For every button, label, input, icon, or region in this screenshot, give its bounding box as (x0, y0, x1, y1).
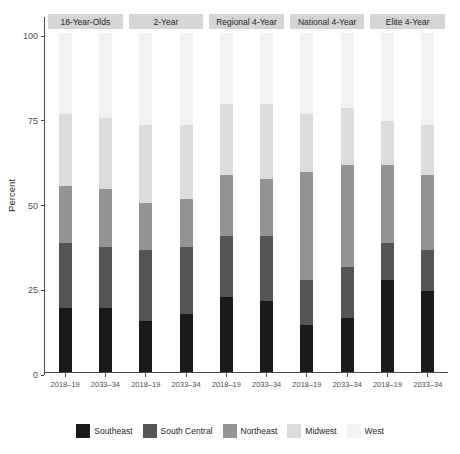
bar-segment-midwest[interactable] (180, 125, 193, 200)
bar-segment-midwest[interactable] (341, 108, 354, 166)
bar-segment-northeast[interactable] (300, 172, 313, 280)
bar-segment-southeast[interactable] (180, 314, 193, 372)
bar-segment-midwest[interactable] (220, 104, 233, 175)
x-axis-tick-mark (226, 373, 227, 377)
stacked-bar[interactable] (300, 33, 313, 372)
bar-segment-south-central[interactable] (421, 250, 434, 291)
bar-segment-northeast[interactable] (99, 189, 112, 247)
bar-segment-south-central[interactable] (139, 250, 152, 321)
legend-item-south-central[interactable]: South Central (143, 424, 213, 438)
stacked-bar[interactable] (341, 33, 354, 372)
x-axis-tick-mark (65, 373, 66, 377)
y-axis-tick: 25 (28, 284, 44, 296)
bar-segment-southeast[interactable] (381, 280, 394, 372)
bar-segment-west[interactable] (139, 33, 152, 125)
stacked-bar[interactable] (421, 33, 434, 372)
bar-segment-northeast[interactable] (180, 199, 193, 246)
stacked-bar[interactable] (381, 33, 394, 372)
facet-row: 18-Year-Olds2018–192033–342-Year2018–192… (45, 14, 448, 410)
bar-segment-west[interactable] (99, 33, 112, 118)
legend-label: Southeast (94, 426, 132, 436)
bar-segment-south-central[interactable] (381, 243, 394, 280)
legend-item-west[interactable]: West (347, 424, 384, 438)
stacked-bar[interactable] (260, 33, 273, 372)
x-axis-labels: 2018–192033–34 (126, 377, 207, 389)
bar-segment-west[interactable] (260, 33, 273, 104)
bar-segment-midwest[interactable] (99, 118, 112, 189)
bar-segment-south-central[interactable] (180, 247, 193, 315)
bar-segment-northeast[interactable] (260, 179, 273, 237)
x-axis-tick-mark (186, 373, 187, 377)
x-axis-labels: 2018–192033–34 (287, 377, 368, 389)
stacked-bar[interactable] (220, 33, 233, 372)
x-axis-ticks (45, 373, 126, 377)
stacked-bar-chart: Percent 0255075100 18-Year-Olds2018–1920… (0, 0, 460, 454)
facet-elite-4-year: Elite 4-Year2018–192033–34 (367, 14, 448, 410)
bar-segment-midwest[interactable] (300, 114, 313, 172)
x-axis-ticks (126, 373, 207, 377)
x-axis-ticks (287, 373, 368, 377)
bar-segment-southeast[interactable] (220, 297, 233, 372)
bar-segment-west[interactable] (220, 33, 233, 104)
x-axis-tick-label: 2033–34 (252, 380, 281, 389)
bar-segment-midwest[interactable] (59, 114, 72, 185)
y-axis-tick: 50 (28, 200, 44, 212)
bar-segment-west[interactable] (381, 33, 394, 121)
x-axis-labels: 2018–192033–34 (45, 377, 126, 389)
y-axis-tick-label: 25 (28, 285, 41, 295)
bar-segment-midwest[interactable] (381, 121, 394, 165)
x-axis-tick-label: 2018–19 (131, 380, 160, 389)
bar-segment-south-central[interactable] (59, 243, 72, 307)
x-axis-tick-label: 2033–34 (333, 380, 362, 389)
stacked-bar[interactable] (180, 33, 193, 372)
bar-segment-west[interactable] (341, 33, 354, 108)
y-axis-tick-label: 75 (28, 116, 41, 126)
stacked-bar[interactable] (139, 33, 152, 372)
x-axis-tick-mark (306, 373, 307, 377)
facet-2-year: 2-Year2018–192033–34 (126, 14, 207, 410)
bar-segment-southeast[interactable] (99, 308, 112, 372)
bar-segment-south-central[interactable] (99, 247, 112, 308)
bar-segment-west[interactable] (300, 33, 313, 114)
bar-segment-west[interactable] (180, 33, 193, 125)
bar-segment-midwest[interactable] (421, 125, 434, 176)
bar-segment-midwest[interactable] (260, 104, 273, 179)
facet-panel (126, 33, 207, 372)
bar-segment-south-central[interactable] (260, 236, 273, 300)
facet-strip-label: 2-Year (129, 14, 204, 29)
bar-segment-south-central[interactable] (300, 280, 313, 324)
x-axis-ticks (367, 373, 448, 377)
bar-segment-west[interactable] (59, 33, 72, 114)
bar-segment-southeast[interactable] (260, 301, 273, 372)
y-axis-tick: 0 (33, 369, 44, 381)
bar-segment-southeast[interactable] (341, 318, 354, 372)
stacked-bar[interactable] (59, 33, 72, 372)
facet-strip-label: 18-Year-Olds (48, 14, 123, 29)
bar-segment-south-central[interactable] (220, 236, 233, 297)
legend-swatch-icon (76, 424, 90, 438)
bar-segment-northeast[interactable] (59, 186, 72, 244)
facet-strip-label: Elite 4-Year (370, 14, 445, 29)
legend-item-midwest[interactable]: Midwest (287, 424, 336, 438)
x-axis-tick-mark (145, 373, 146, 377)
bar-segment-west[interactable] (421, 33, 434, 125)
x-axis-tick-mark (266, 373, 267, 377)
legend-item-southeast[interactable]: Southeast (76, 424, 132, 438)
bar-segment-southeast[interactable] (300, 325, 313, 372)
stacked-bar[interactable] (99, 33, 112, 372)
bar-segment-south-central[interactable] (341, 267, 354, 318)
bar-segment-northeast[interactable] (341, 165, 354, 267)
bar-segment-northeast[interactable] (381, 165, 394, 243)
bar-segment-northeast[interactable] (139, 203, 152, 250)
bar-segment-midwest[interactable] (139, 125, 152, 203)
bar-segment-northeast[interactable] (421, 175, 434, 250)
bar-segment-southeast[interactable] (59, 308, 72, 372)
facet-panel (45, 33, 126, 372)
bar-segment-northeast[interactable] (220, 175, 233, 236)
x-axis-tick-mark (347, 373, 348, 377)
bar-segment-southeast[interactable] (421, 291, 434, 372)
legend-item-northeast[interactable]: Northeast (223, 424, 278, 438)
legend-swatch-icon (143, 424, 157, 438)
facet-national-4-year: National 4-Year2018–192033–34 (287, 14, 368, 410)
bar-segment-southeast[interactable] (139, 321, 152, 372)
